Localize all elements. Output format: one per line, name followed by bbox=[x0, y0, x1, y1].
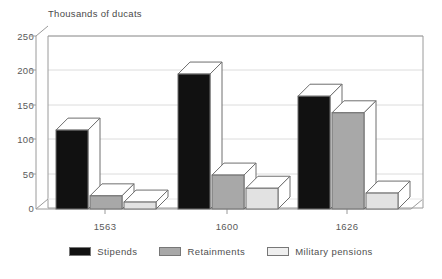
legend-label-stipends: Stipends bbox=[97, 246, 137, 257]
legend-swatch-retainments bbox=[159, 247, 181, 256]
legend-swatch-stipends bbox=[69, 247, 91, 256]
bar-1600-military-pensions bbox=[246, 176, 290, 209]
plot-area bbox=[0, 0, 442, 279]
legend-swatch-military-pensions bbox=[267, 247, 289, 256]
chart-legend: Stipends Retainments Military pensions bbox=[0, 246, 442, 257]
legend-item-military-pensions[interactable]: Military pensions bbox=[267, 246, 373, 257]
legend-label-military-pensions: Military pensions bbox=[295, 246, 373, 257]
legend-label-retainments: Retainments bbox=[187, 246, 245, 257]
legend-item-retainments[interactable]: Retainments bbox=[159, 246, 245, 257]
legend-item-stipends[interactable]: Stipends bbox=[69, 246, 137, 257]
bar-chart: Thousands of ducats 250 200 150 100 50 0… bbox=[0, 0, 442, 279]
bars-layer bbox=[56, 62, 410, 209]
